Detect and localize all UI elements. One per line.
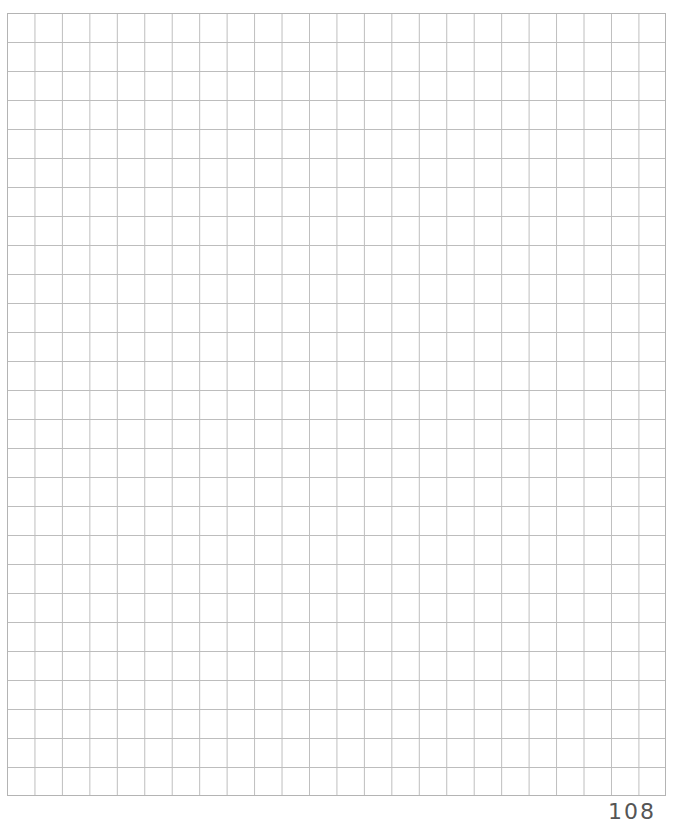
page-number: 108 xyxy=(608,801,656,823)
grid-paper xyxy=(7,13,666,796)
